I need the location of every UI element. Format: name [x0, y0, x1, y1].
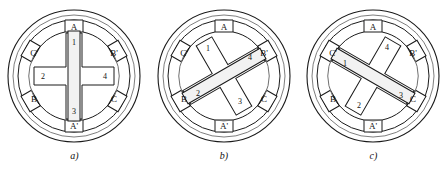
stator-label-upper-left: C' [30, 48, 38, 58]
rotor-label-right: 4 [248, 53, 252, 62]
figure-c-drawing: A B' C A' B C' 4 1 2 3 [299, 0, 448, 152]
rotor-label-bottom: 3 [238, 97, 242, 106]
stator-label-upper-right: B' [409, 48, 417, 58]
stator-label-bottom: A' [369, 121, 377, 131]
rotor-label-bottom: 2 [357, 101, 361, 110]
figure-b-drawing: A B' C A' B C' 1 2 3 4 [150, 0, 299, 152]
rotor-label-top: 1 [206, 44, 210, 53]
stator-label-upper-left: C' [329, 48, 337, 58]
figure-b: A B' C A' B C' 1 2 3 4 b) [150, 0, 299, 180]
stator-label-top: A [71, 22, 78, 32]
stator-label-lower-right: C [260, 94, 266, 104]
stator-label-lower-right: C [111, 94, 117, 104]
figure-c: A B' C A' B C' 4 1 2 3 c) [299, 0, 448, 180]
stator-label-upper-right: B' [260, 48, 268, 58]
stator-label-upper-right: B' [110, 48, 118, 58]
figure-a: A B' C A' B C' 1 2 3 4 a) [0, 0, 149, 180]
stator-label-lower-right: C [410, 94, 416, 104]
figure-row: A B' C A' B C' 1 2 3 4 a) [0, 0, 448, 180]
rotor-label-top: 4 [385, 43, 389, 52]
rotor-label-right: 4 [103, 72, 107, 81]
stator-label-top: A [220, 22, 227, 32]
rotor-label-left: 1 [343, 59, 347, 68]
rotor-label-right: 3 [399, 91, 403, 100]
stator-label-bottom: A' [70, 121, 78, 131]
rotor-label-bottom: 3 [72, 107, 76, 116]
stator-label-bottom: A' [219, 121, 227, 131]
figure-caption-a: a) [0, 150, 149, 161]
rotor-label-left: 2 [41, 72, 45, 81]
figure-caption-c: c) [299, 150, 448, 161]
stator-label-upper-left: C' [180, 48, 188, 58]
figure-caption-b: b) [150, 150, 299, 161]
stator-label-lower-left: B [31, 94, 37, 104]
stator-label-top: A [370, 22, 377, 32]
rotor-label-top: 1 [72, 38, 76, 47]
stator-label-lower-left: B [330, 94, 336, 104]
stator-label-lower-left: B [180, 94, 186, 104]
figure-a-drawing: A B' C A' B C' 1 2 3 4 [0, 0, 149, 152]
rotor-label-left: 2 [196, 89, 200, 98]
